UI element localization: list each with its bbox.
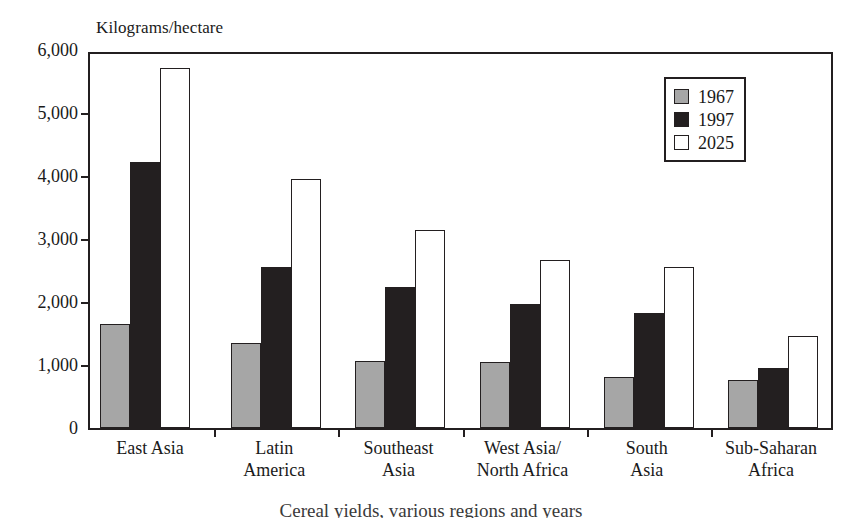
legend-swatch-icon [674,89,689,104]
x-axis-tick [214,428,216,437]
chart-legend: 196719972025 [664,77,746,162]
y-axis-tick-label: 2,000 [38,292,79,313]
bar-1997[interactable] [510,304,540,428]
y-axis-tick-label: 0 [69,418,78,439]
legend-item[interactable]: 1997 [674,108,734,131]
legend-item[interactable]: 1967 [674,85,734,108]
y-axis-tick-label: 6,000 [38,40,79,61]
y-axis-tick-label: 4,000 [38,166,79,187]
bar-1997[interactable] [261,267,291,428]
bar-1967[interactable] [604,377,634,428]
bar-1997[interactable] [130,162,160,428]
bar-1967[interactable] [355,361,385,428]
y-axis-tick [81,113,90,115]
figure-caption: Cereal yields, various regions and years [0,500,862,518]
legend-swatch-icon [674,112,689,127]
y-axis-tick [81,365,90,367]
y-axis-tick [81,176,90,178]
bar-group [100,54,190,428]
x-axis-label: Latin America [212,438,336,482]
bar-1997[interactable] [385,287,415,428]
y-axis-tick [81,302,90,304]
x-axis-label: Southeast Asia [336,438,460,482]
bar-2025[interactable] [415,230,445,428]
bar-chart-figure: Kilograms/hectare 01,0002,0003,0004,0005… [0,0,862,518]
bar-2025[interactable] [664,267,694,428]
x-axis-tick [587,428,589,437]
bar-1967[interactable] [231,343,261,428]
bar-2025[interactable] [160,68,190,428]
x-axis-tick [463,428,465,437]
legend-label: 2025 [698,134,734,152]
y-axis-tick-label: 5,000 [38,103,79,124]
bar-1967[interactable] [480,362,510,428]
bar-group [355,54,445,428]
x-axis-tick [711,428,713,437]
y-axis-tick-label: 3,000 [38,229,79,250]
bar-1967[interactable] [100,324,130,428]
y-axis-tick [81,239,90,241]
bar-1967[interactable] [728,380,758,428]
legend-label: 1967 [698,88,734,106]
x-axis-tick [338,428,340,437]
x-axis-label: South Asia [585,438,709,482]
x-axis-label: East Asia [88,438,212,460]
bar-1997[interactable] [634,313,664,428]
bar-2025[interactable] [540,260,570,428]
bar-group [231,54,321,428]
y-axis-title: Kilograms/hectare [96,18,223,38]
bar-2025[interactable] [788,336,818,428]
legend-label: 1997 [698,111,734,129]
legend-swatch-icon [674,135,689,150]
y-axis-tick-label: 1,000 [38,355,79,376]
x-axis-label: Sub-Saharan Africa [709,438,833,482]
bar-2025[interactable] [291,179,321,428]
bar-group [480,54,570,428]
bar-1997[interactable] [758,368,788,428]
legend-item[interactable]: 2025 [674,131,734,154]
x-axis-label: West Asia/ North Africa [461,438,585,482]
